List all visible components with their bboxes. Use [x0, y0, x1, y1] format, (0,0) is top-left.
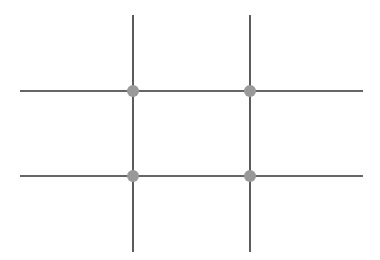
- intersection-point-3: [127, 170, 139, 182]
- intersection-point-1: [127, 85, 139, 97]
- grid-lines: [20, 15, 363, 252]
- intersection-point-4: [244, 170, 256, 182]
- intersection-point-2: [244, 85, 256, 97]
- grid-diagram: [0, 0, 380, 260]
- intersection-points: [127, 85, 256, 182]
